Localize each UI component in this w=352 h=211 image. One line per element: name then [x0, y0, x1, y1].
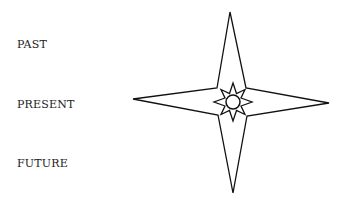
sun-core: [226, 95, 240, 109]
star-figure: [0, 0, 352, 211]
